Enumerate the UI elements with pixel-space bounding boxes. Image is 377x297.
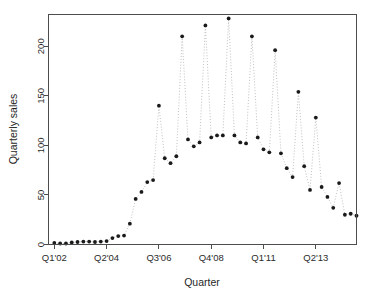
data-point <box>151 178 155 182</box>
data-point <box>174 154 178 158</box>
data-point <box>163 156 167 160</box>
data-point <box>256 136 260 140</box>
data-point <box>157 104 161 108</box>
data-point <box>186 138 190 142</box>
data-point <box>296 90 300 94</box>
x-tick-label: Q1'02 <box>42 252 67 263</box>
data-point <box>267 150 271 154</box>
data-point <box>93 240 97 244</box>
data-point <box>140 190 144 194</box>
data-point <box>116 234 120 238</box>
data-point <box>76 240 80 244</box>
data-point <box>209 136 213 140</box>
data-point <box>134 197 138 201</box>
data-point <box>320 185 324 189</box>
data-point <box>128 222 132 226</box>
data-point <box>273 48 277 52</box>
data-point <box>70 241 74 245</box>
data-point <box>180 34 184 38</box>
x-tick-label: Q1'11 <box>251 252 275 263</box>
data-point <box>291 175 295 179</box>
y-tick-label: 50 <box>35 190 46 201</box>
quarterly-sales-scatter-plot: 050100150200 Q1'02Q2'04Q3'06Q4'08Q1'11Q2… <box>0 0 377 297</box>
data-point <box>169 161 173 165</box>
data-point <box>285 166 289 170</box>
y-tick-label: 200 <box>35 38 46 54</box>
data-point <box>204 24 208 28</box>
x-tick-label: Q3'06 <box>146 252 171 263</box>
data-point <box>221 134 225 138</box>
x-tick-label: Q2'13 <box>303 252 328 263</box>
y-tick-label: 100 <box>35 137 46 153</box>
data-point <box>331 206 335 210</box>
data-point <box>238 140 242 144</box>
data-point <box>227 17 231 21</box>
data-point <box>279 151 283 155</box>
data-point <box>308 188 312 192</box>
data-point <box>349 212 353 216</box>
data-point <box>337 181 341 185</box>
data-point <box>87 240 91 244</box>
y-tick-label: 0 <box>35 242 46 247</box>
data-point <box>99 240 103 244</box>
data-point <box>302 164 306 168</box>
data-point <box>105 239 109 243</box>
x-tick-label: Q2'04 <box>94 252 119 263</box>
data-point <box>314 116 318 120</box>
data-point <box>198 140 202 144</box>
data-point <box>250 34 254 38</box>
data-point <box>215 134 219 138</box>
data-point <box>343 213 347 217</box>
data-point <box>192 144 196 148</box>
data-point <box>233 134 237 138</box>
data-point <box>244 141 248 145</box>
y-axis-title: Quarterly sales <box>7 94 19 165</box>
y-tick-label: 150 <box>35 88 46 104</box>
x-axis-title: Quarter <box>184 276 220 288</box>
chart-figure: 050100150200 Q1'02Q2'04Q3'06Q4'08Q1'11Q2… <box>0 0 377 297</box>
x-tick-label: Q4'08 <box>199 252 224 263</box>
data-point <box>326 195 330 199</box>
data-point <box>81 240 85 244</box>
data-point <box>145 180 149 184</box>
data-point <box>122 234 126 238</box>
data-point <box>262 147 266 151</box>
data-point <box>111 236 115 240</box>
